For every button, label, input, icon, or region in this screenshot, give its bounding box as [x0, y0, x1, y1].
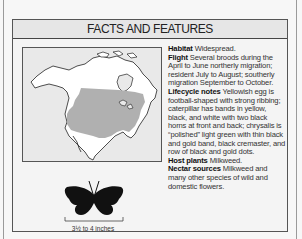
page-edge-right [296, 0, 297, 239]
fact-lifecycle: Lifecycle notes Yellowish egg is footbal… [168, 88, 286, 157]
facts-panel: FACTS AND FEATURES 3½ to 4 inches Habita… [12, 19, 288, 232]
page-edge-left [3, 0, 4, 239]
fact-text: Yellowish egg is football-shaped with st… [168, 87, 285, 156]
range-map [22, 47, 162, 162]
facts-list: Habitat Widespread. Flight Several brood… [168, 45, 286, 191]
panel-title: FACTS AND FEATURES [13, 20, 287, 39]
fact-flight: Flight Several broods during the April t… [168, 54, 286, 88]
wingspan-label: 3½ to 4 inches [53, 225, 133, 232]
butterfly-silhouette-icon [59, 175, 129, 225]
fact-nectar-sources: Nectar sources Milkweed and many other s… [168, 165, 286, 191]
